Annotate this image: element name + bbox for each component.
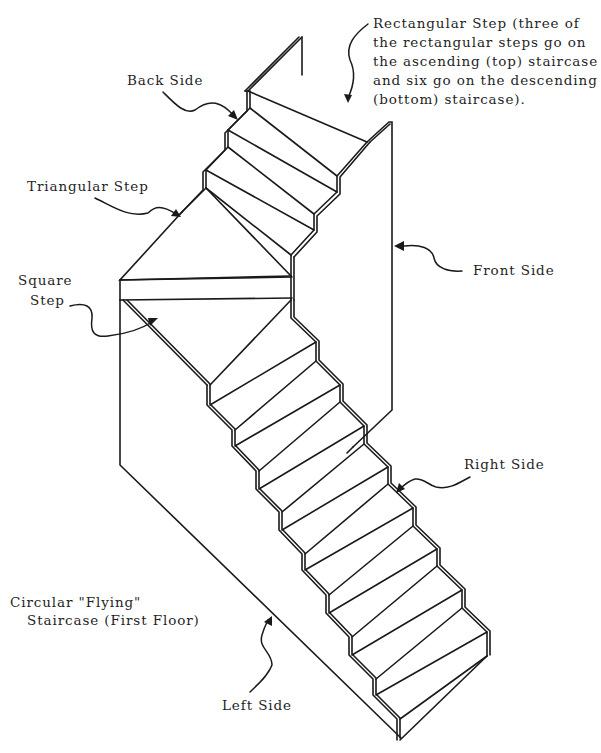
label-square-step-line-1: Square xyxy=(18,272,72,288)
rectangular-step-line-5: (bottom) staircase). xyxy=(373,91,526,107)
rectangular-step-line-1: Rectangular Step (three of xyxy=(373,15,580,31)
ascending-staircase xyxy=(180,91,370,257)
back-side-panel xyxy=(245,37,302,91)
leader-square-step xyxy=(70,305,158,337)
leader-back-side xyxy=(163,92,238,120)
leader-front-side xyxy=(394,241,462,271)
diagram-title-line-1: Circular "Flying" xyxy=(10,594,141,610)
diagram-title-line-2: Staircase (First Floor) xyxy=(27,612,200,628)
leader-triangular-step xyxy=(95,198,181,217)
leader-rectangular-step xyxy=(344,24,368,103)
label-right-side: Right Side xyxy=(464,456,545,472)
descending-staircase xyxy=(207,300,490,740)
label-square-step-line-2: Step xyxy=(30,292,65,308)
rectangular-step-line-2: the rectangular steps go on xyxy=(373,34,586,50)
leader-right-side xyxy=(396,477,470,493)
rectangular-step-line-4: and six go on the descending xyxy=(373,72,598,88)
label-front-side: Front Side xyxy=(473,262,555,278)
label-rectangular-step: Rectangular Step (three of the rectangul… xyxy=(373,15,598,107)
label-triangular-step: Triangular Step xyxy=(27,178,149,194)
front-side-panel xyxy=(353,122,392,447)
left-side-panel xyxy=(120,300,401,738)
label-left-side: Left Side xyxy=(222,697,292,713)
label-back-side: Back Side xyxy=(127,72,203,88)
leader-left-side xyxy=(250,616,272,692)
square-step xyxy=(120,255,294,385)
rectangular-step-line-3: the ascending (top) staircase xyxy=(373,53,598,69)
staircase-diagram: Rectangular Step (three of the rectangul… xyxy=(0,0,601,753)
